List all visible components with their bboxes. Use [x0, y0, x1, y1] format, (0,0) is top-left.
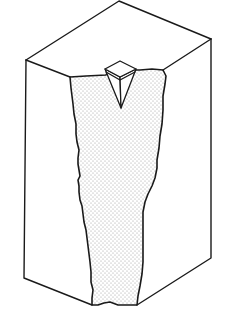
block-top-front-left-edge	[26, 60, 70, 77]
fracture-zone	[70, 69, 166, 305]
block-top-front-right-edge	[163, 39, 211, 70]
diagram-canvas	[0, 0, 227, 310]
block-indentation-diagram	[0, 0, 227, 310]
block-top-left-edge	[26, 1, 211, 60]
